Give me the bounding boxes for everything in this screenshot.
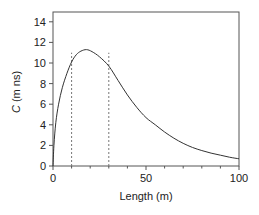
dashed-reference-lines xyxy=(72,53,109,166)
y-tick-label: 4 xyxy=(40,119,46,131)
data-series-line xyxy=(53,50,239,166)
y-axis-label: C (m ns) xyxy=(10,71,22,113)
y-tick-label: 8 xyxy=(40,78,46,90)
x-axis-label: Length (m) xyxy=(119,190,172,202)
x-tick-label: 50 xyxy=(140,172,152,184)
plot-border xyxy=(53,12,239,166)
x-tick-label: 0 xyxy=(50,172,56,184)
x-axis: 050100 xyxy=(50,166,248,184)
y-axis: 02468101214 xyxy=(34,16,53,172)
y-tick-label: 12 xyxy=(34,36,46,48)
y-tick-label: 0 xyxy=(40,160,46,172)
line-chart: 02468101214 050100 Length (m) C (m ns) xyxy=(0,0,259,215)
y-tick-label: 2 xyxy=(40,139,46,151)
y-tick-label: 10 xyxy=(34,57,46,69)
y-tick-label: 14 xyxy=(34,16,46,28)
y-tick-label: 6 xyxy=(40,98,46,110)
plot-frame xyxy=(53,12,239,166)
x-tick-label: 100 xyxy=(230,172,248,184)
